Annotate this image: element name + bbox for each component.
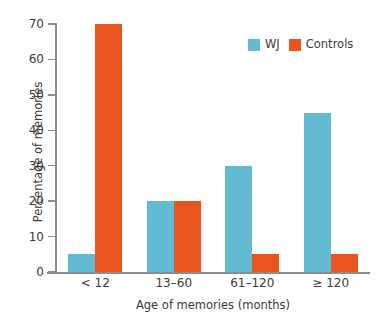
plot-area	[56, 24, 370, 272]
y-axis-title: Percentage of memories	[31, 52, 45, 252]
x-axis-title: Age of memories (months)	[56, 298, 370, 312]
bar-chart-figure: WJ Controls Percentage of memories 01020…	[0, 0, 380, 322]
y-axis-tick-label: 50	[0, 89, 44, 101]
bar-controls-3	[331, 254, 358, 272]
y-axis-tick	[48, 200, 55, 202]
bar-wj-1	[147, 201, 174, 272]
bar-controls-1	[174, 201, 201, 272]
bar-controls-0	[95, 24, 122, 272]
y-axis-tick	[48, 59, 55, 61]
y-axis-tick	[48, 23, 55, 25]
bar-wj-2	[225, 166, 252, 272]
x-axis-tick-label: < 12	[81, 277, 110, 289]
y-axis-tick	[48, 271, 55, 273]
x-axis-tick-label: 13–60	[155, 277, 192, 289]
bar-wj-3	[304, 113, 331, 272]
y-axis-tick	[48, 236, 55, 238]
y-axis-tick-label: 40	[0, 124, 44, 136]
y-axis-tick-label: 20	[0, 195, 44, 207]
x-axis-line	[47, 272, 370, 274]
y-axis-tick	[48, 165, 55, 167]
y-axis-tick-label: 70	[0, 18, 44, 30]
x-axis-tick-label: 61–120	[230, 277, 274, 289]
y-axis-tick-label: 10	[0, 231, 44, 243]
bar-wj-0	[68, 254, 95, 272]
y-axis-tick-label: 30	[0, 160, 44, 172]
y-axis-tick-label: 0	[0, 266, 44, 278]
y-axis-tick	[48, 130, 55, 132]
y-axis-tick-label: 60	[0, 53, 44, 65]
x-axis-tick-label: ≥ 120	[312, 277, 349, 289]
bar-controls-2	[252, 254, 279, 272]
y-axis-tick	[48, 94, 55, 96]
